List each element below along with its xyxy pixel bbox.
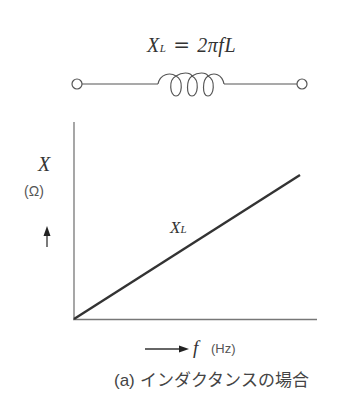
x-axis-unit: (Hz) [211,341,236,356]
curve-label-subscript: L [180,223,186,235]
formula-symbol: X [147,34,160,56]
curve-label: XL [170,217,187,238]
y-direction-arrow-icon [44,226,51,247]
caption-text: インダクタンスの場合 [135,370,309,390]
xl-curve [74,175,300,319]
caption-label: (a) [114,371,135,390]
left-terminal-icon [72,79,82,89]
formula-equals: = [166,33,197,57]
formula-subscript: L [160,42,167,54]
x-direction-arrow-icon [145,346,189,353]
right-terminal-icon [297,79,307,89]
inductor-coil-icon [158,73,224,96]
y-axis-symbol: X [38,153,50,176]
diagram-canvas [0,0,341,394]
y-axis-unit: (Ω) [24,183,44,199]
reactance-formula: XL = 2πfL [147,33,236,57]
inductor-circuit [72,73,307,96]
curve-label-symbol: X [170,218,180,237]
formula-rhs: 2πfL [197,34,236,56]
x-axis-symbol: f [193,337,198,359]
figure-caption: (a) インダクタンスの場合 [114,366,309,391]
